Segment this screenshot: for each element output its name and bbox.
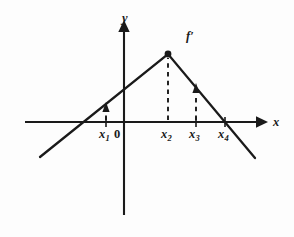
- label-x1-sub: 1: [106, 133, 110, 143]
- label-x1: x1: [99, 128, 110, 141]
- x-axis-arrowhead: [256, 116, 268, 127]
- origin-label: 0: [114, 128, 120, 141]
- curve-label-prime: ′: [190, 29, 194, 43]
- label-x3-base: x: [189, 127, 195, 141]
- label-x2: x2: [161, 128, 172, 141]
- label-x3: x3: [189, 128, 200, 141]
- label-x4-base: x: [218, 127, 224, 141]
- peak-point-dot: [165, 51, 172, 58]
- label-x2-sub: 2: [168, 133, 172, 143]
- fprime-curve: [40, 54, 255, 158]
- label-x4-sub: 4: [225, 133, 229, 143]
- label-x4: x4: [218, 128, 229, 141]
- label-x3-sub: 3: [196, 133, 200, 143]
- label-x2-base: x: [161, 127, 167, 141]
- y-axis-label: y: [122, 12, 128, 25]
- curve-label-fprime: f′: [186, 30, 194, 43]
- figure-canvas: y x f′ 0 x1 x2 x3 x4: [0, 0, 294, 237]
- graph-svg: [0, 0, 294, 237]
- x-axis-label: x: [273, 116, 279, 129]
- label-x1-base: x: [99, 127, 105, 141]
